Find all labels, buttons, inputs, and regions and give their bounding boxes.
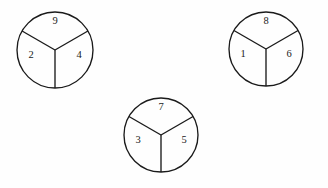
sector-label-top: 7 bbox=[158, 101, 163, 112]
spoke-upper-left bbox=[129, 117, 161, 136]
sector-label-right: 5 bbox=[181, 134, 186, 145]
puzzle-figure: 9 2 4 8 1 6 7 3 5 bbox=[0, 0, 328, 188]
spoke-upper-right bbox=[161, 117, 193, 136]
sector-label-left: 3 bbox=[135, 134, 140, 145]
circle-diagram-bottom: 7 3 5 bbox=[0, 0, 328, 188]
